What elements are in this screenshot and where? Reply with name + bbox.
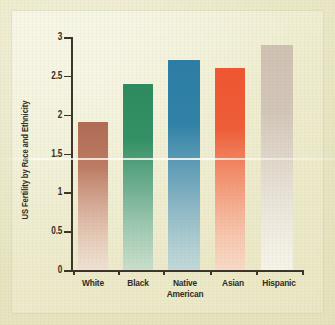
y-tick-0p5 [64,231,72,233]
y-tick-label-0p5: 0.5 [29,225,62,236]
bar-slot-white [78,37,108,270]
y-tick-3 [64,37,72,39]
x-axis-label-asian-text: Asian [222,277,244,288]
x-axis-label-white-text: White [82,277,104,288]
bar-asian[interactable] [215,68,245,270]
y-tick-label-3: 3 [29,31,62,42]
x-axis-label-black-text: Black [127,277,148,288]
y-tick-2 [64,115,72,117]
x-axis-label-hispanic-text: Hispanic [262,277,295,288]
y-tick-1 [64,192,72,194]
bar-native-american[interactable] [168,60,200,270]
bar-chart: US Fertility by Race and Ethnicity 3 2.5… [0,0,335,325]
bar-hispanic[interactable] [261,45,293,270]
y-tick-label-0: 0 [29,264,62,275]
x-axis-label-native-american-line2: American [159,288,212,299]
y-tick-2p5 [64,76,72,78]
y-axis-label: US Fertility by Race and Ethnicity [20,84,30,237]
y-tick-0 [64,270,72,272]
x-tick-1 [118,270,120,275]
y-tick-label-1: 1 [29,186,62,197]
x-axis-label-native-american: Native American [159,277,212,299]
y-tick-1p5 [64,154,72,156]
bar-slot-native-american [168,37,200,270]
bar-white[interactable] [78,122,108,270]
y-tick-label-1p5: 1.5 [29,148,62,159]
figure-canvas: US Fertility by Race and Ethnicity 3 2.5… [0,0,335,325]
bar-slot-hispanic [261,37,293,270]
x-axis-label-black: Black [112,277,165,288]
x-tick-3 [210,270,212,275]
y-tick-label-2p5: 2.5 [29,70,62,81]
x-tick-5 [302,270,304,275]
x-tick-0 [73,270,75,275]
y-tick-label-2: 2 [29,109,62,120]
bars-group [73,37,304,270]
x-tick-2 [163,270,165,275]
x-axis-line [71,270,304,272]
x-tick-4 [256,270,258,275]
bar-slot-asian [215,37,245,270]
x-axis-label-hispanic: Hispanic [252,277,307,288]
x-axis-label-native-american-line1: Native [173,277,197,288]
bar-slot-black [123,37,153,270]
bar-black[interactable] [123,84,153,270]
